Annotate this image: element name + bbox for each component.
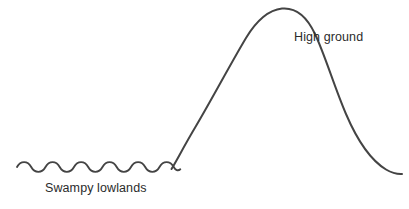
high-ground-label: High ground bbox=[294, 30, 363, 44]
wavy-swamp-line-icon bbox=[17, 162, 180, 172]
swampy-lowlands-label: Swampy lowlands bbox=[45, 181, 147, 195]
terrain-diagram: Swampy lowlands High ground bbox=[0, 0, 409, 209]
hill-profile-curve-icon bbox=[172, 8, 403, 174]
